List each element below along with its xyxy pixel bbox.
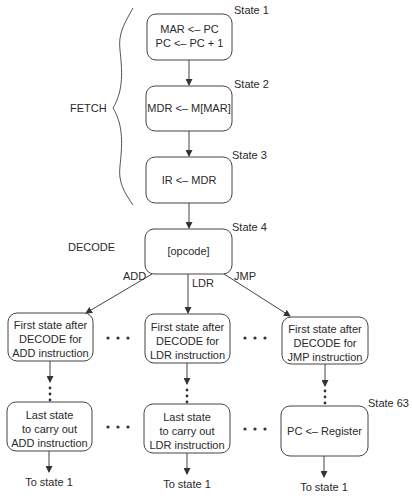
add-last-line-3: ADD instruction bbox=[11, 437, 87, 449]
add-first-state: First state after DECODE for ADD instruc… bbox=[8, 313, 93, 361]
ldr-first-line-3: LDR instruction bbox=[150, 349, 225, 361]
ldr-first-line-2: DECODE for bbox=[156, 335, 219, 347]
state-4: [opcode] State 4 bbox=[145, 221, 267, 274]
state-1-line-1: MAR <– PC bbox=[160, 23, 218, 35]
decode-label: DECODE bbox=[68, 241, 115, 253]
exit-label-add: To state 1 bbox=[25, 476, 73, 488]
vertical-ellipses bbox=[49, 387, 327, 405]
state-63-line-1: PC <– Register bbox=[287, 425, 362, 437]
jmp-first-line-1: First state after bbox=[288, 323, 362, 335]
state-diagram: FETCH MAR <– PC PC <– PC + 1 State 1 MDR… bbox=[0, 0, 412, 496]
state-2-label: State 2 bbox=[234, 78, 269, 90]
state-3: IR <– MDR State 3 bbox=[146, 149, 267, 203]
state-4-line-1: [opcode] bbox=[167, 245, 209, 257]
state-3-line-1: IR <– MDR bbox=[162, 174, 217, 186]
edge-label-add: ADD bbox=[123, 270, 146, 282]
ldr-last-line-1: Last state bbox=[163, 411, 211, 423]
add-last-line-2: to carry out bbox=[22, 423, 77, 435]
jmp-first-line-2: DECODE for bbox=[294, 337, 357, 349]
state-63: PC <– Register State 63 bbox=[281, 397, 409, 456]
add-first-line-2: DECODE for bbox=[19, 333, 82, 345]
edge-label-ldr: LDR bbox=[192, 277, 214, 289]
add-last-line-1: Last state bbox=[26, 409, 74, 421]
state-1: MAR <– PC PC <– PC + 1 State 1 bbox=[147, 4, 269, 60]
add-first-line-3: ADD instruction bbox=[12, 347, 88, 359]
fetch-label: FETCH bbox=[70, 102, 107, 114]
state-1-label: State 1 bbox=[234, 4, 269, 16]
state-2-line-1: MDR <– M[MAR] bbox=[147, 102, 230, 114]
ldr-last-line-3: LDR instruction bbox=[149, 439, 224, 451]
state-4-label: State 4 bbox=[232, 221, 267, 233]
fetch-brace bbox=[113, 8, 133, 205]
state-2: MDR <– M[MAR] State 2 bbox=[146, 78, 269, 131]
ldr-last-state: Last state to carry out LDR instruction bbox=[144, 404, 230, 453]
state-1-line-2: PC <– PC + 1 bbox=[156, 37, 224, 49]
state-63-label: State 63 bbox=[368, 397, 409, 409]
ldr-first-line-1: First state after bbox=[151, 321, 225, 333]
add-first-line-1: First state after bbox=[14, 319, 88, 331]
jmp-first-line-3: JMP instruction bbox=[288, 351, 363, 363]
exit-label-ldr: To state 1 bbox=[163, 478, 211, 490]
add-last-state: Last state to carry out ADD instruction bbox=[7, 402, 92, 451]
jmp-first-state: First state after DECODE for JMP instruc… bbox=[282, 317, 368, 364]
state-3-label: State 3 bbox=[232, 149, 267, 161]
exit-label-jmp: To state 1 bbox=[300, 481, 348, 493]
ldr-last-line-2: to carry out bbox=[159, 425, 214, 437]
ldr-first-state: First state after DECODE for LDR instruc… bbox=[145, 314, 230, 363]
edge-label-jmp: JMP bbox=[234, 270, 256, 282]
